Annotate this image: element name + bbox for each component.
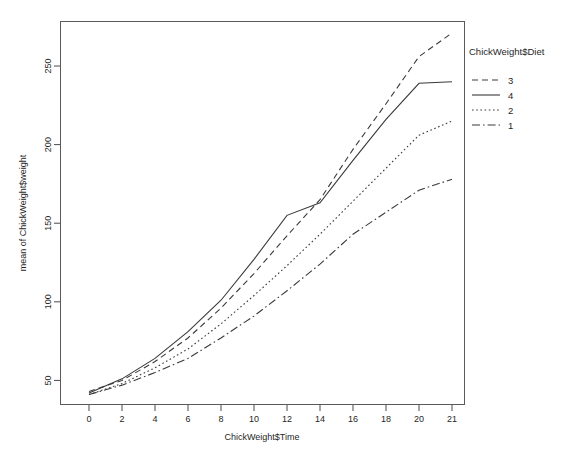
x-tick-label: 20 bbox=[414, 414, 424, 424]
x-tick-label: 6 bbox=[185, 414, 190, 424]
x-tick-label: 2 bbox=[119, 414, 124, 424]
series-line-diet-3 bbox=[89, 33, 452, 391]
legend-label-diet-1: 1 bbox=[508, 120, 513, 131]
x-tick-label: 8 bbox=[218, 414, 223, 424]
x-axis-title: ChickWeight$Time bbox=[224, 432, 299, 442]
legend-label-diet-2: 2 bbox=[508, 105, 513, 116]
y-tick-label: 100 bbox=[43, 294, 53, 309]
series-line-diet-2 bbox=[89, 121, 452, 395]
x-tick-label: 10 bbox=[249, 414, 259, 424]
series-line-diet-4 bbox=[89, 82, 452, 393]
x-tick-label: 0 bbox=[86, 414, 91, 424]
legend-label-diet-3: 3 bbox=[508, 75, 513, 86]
chart-canvas: 50100150200250 0246810121416182021 Chick… bbox=[0, 0, 571, 467]
interaction-plot: 50100150200250 0246810121416182021 Chick… bbox=[0, 0, 571, 467]
legend-entries: 3421 bbox=[472, 75, 513, 131]
y-tick-label: 150 bbox=[43, 216, 53, 231]
y-axis-ticks: 50100150200250 bbox=[43, 59, 60, 386]
y-tick-label: 200 bbox=[43, 137, 53, 152]
y-tick-label: 250 bbox=[43, 59, 53, 74]
x-axis-ticks: 0246810121416182021 bbox=[86, 405, 457, 424]
x-tick-label: 4 bbox=[152, 414, 157, 424]
y-tick-label: 50 bbox=[43, 375, 53, 385]
x-tick-label: 18 bbox=[381, 414, 391, 424]
y-axis-title: mean of ChickWeight$weight bbox=[18, 154, 28, 271]
legend-title: ChickWeight$Diet bbox=[469, 46, 545, 57]
x-tick-label: 21 bbox=[447, 414, 457, 424]
x-tick-label: 14 bbox=[315, 414, 325, 424]
series-lines bbox=[89, 33, 452, 395]
legend: ChickWeight$Diet 3421 bbox=[469, 46, 545, 131]
legend-label-diet-4: 4 bbox=[508, 90, 513, 101]
x-tick-label: 16 bbox=[348, 414, 358, 424]
series-line-diet-1 bbox=[89, 179, 452, 394]
x-tick-label: 12 bbox=[282, 414, 292, 424]
